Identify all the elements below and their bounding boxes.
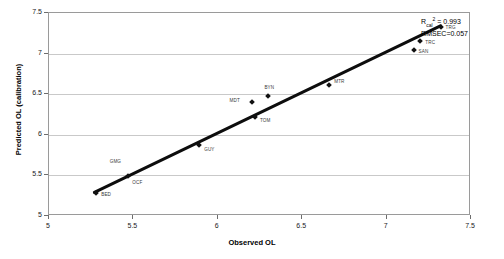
data-point-label: BED xyxy=(101,192,111,197)
data-point-label: BYN xyxy=(264,85,274,90)
x-tick-label: 6 xyxy=(202,222,232,229)
data-point-label: OCF xyxy=(132,180,142,185)
x-tick-label: 7 xyxy=(371,222,401,229)
data-point-label: TRC xyxy=(425,40,435,45)
x-tick-mark xyxy=(470,215,471,219)
trendline xyxy=(94,26,440,192)
statistics-annotation: Rcal2 = 0.993 RMSEC=0.057 xyxy=(421,16,468,39)
data-point-label: MDT xyxy=(230,98,240,103)
x-tick-label: 5.5 xyxy=(117,222,147,229)
r-squared-text: Rcal2 = 0.993 xyxy=(421,16,468,29)
data-point-label: GUY xyxy=(204,147,214,152)
data-point-label: TOM xyxy=(260,118,270,123)
x-tick-mark xyxy=(132,215,133,219)
y-tick-label: 5 xyxy=(16,211,42,218)
x-tick-mark xyxy=(217,215,218,219)
data-point-label: SAN xyxy=(419,49,429,54)
r-squared-value: = 0.993 xyxy=(435,18,461,25)
y-tick-label: 7.5 xyxy=(16,8,42,15)
y-axis-title: Predicted OL (calibration) xyxy=(14,30,23,190)
x-tick-mark xyxy=(48,215,49,219)
trendline-layer xyxy=(49,13,469,214)
x-tick-mark xyxy=(386,215,387,219)
x-tick-label: 7.5 xyxy=(455,222,485,229)
x-tick-label: 6.5 xyxy=(286,222,316,229)
r-squared-subscript: cal xyxy=(426,22,432,28)
x-axis-title: Observed OL xyxy=(0,238,504,247)
data-point-label: GMG xyxy=(110,159,121,164)
x-tick-mark xyxy=(301,215,302,219)
plot-area: BEDOCFGMGGUYMDTTOMBYNMTRSANTRCTRG xyxy=(48,12,470,215)
data-point-label: MTR xyxy=(334,79,344,84)
rmsec-text: RMSEC=0.057 xyxy=(421,29,468,39)
x-tick-label: 5 xyxy=(33,222,63,229)
chart-figure: 55.566.577.5 55.566.577.5 BEDOCFGMGGUYMD… xyxy=(0,0,504,259)
